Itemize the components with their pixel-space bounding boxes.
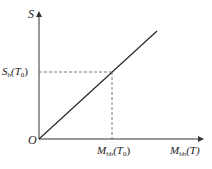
origin-label: O <box>28 134 37 146</box>
x-tick-label: Mbb(T0) <box>97 145 130 158</box>
data-line <box>39 31 157 139</box>
y-axis-label: S <box>28 8 34 20</box>
x-axis-label: Mbb(T) <box>170 145 200 158</box>
y-tick-label: Sb(T0) <box>2 66 28 79</box>
diagram-figure: S Sb(T0) O Mbb(T0) Mbb(T) <box>0 0 212 169</box>
